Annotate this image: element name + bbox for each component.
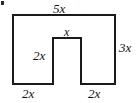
dimension-label-right: 3x bbox=[119, 41, 131, 54]
dimension-label-bottom-left: 2x bbox=[22, 87, 34, 100]
geometry-figure: 5x 3x x 2x 2x 2x bbox=[0, 0, 140, 103]
dimension-label-bottom-right: 2x bbox=[88, 87, 100, 100]
dimension-label-notch-top: x bbox=[64, 26, 69, 38]
dimension-label-top: 5x bbox=[53, 2, 65, 15]
dimension-label-notch-left: 2x bbox=[33, 49, 45, 62]
